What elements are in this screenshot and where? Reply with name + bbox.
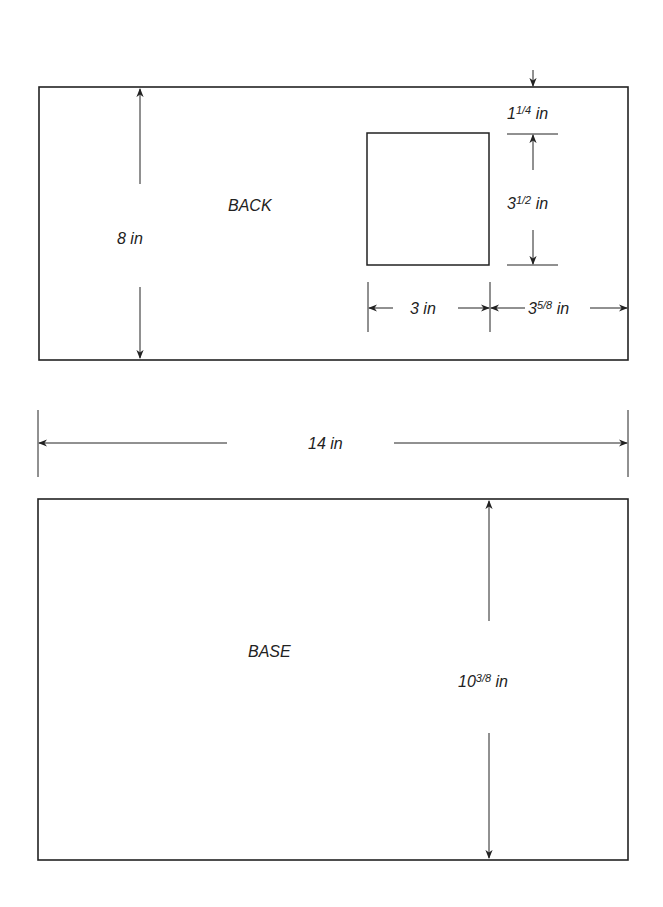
svg-text:103/8 in: 103/8 in [458, 672, 508, 690]
base-label: BASE [248, 643, 291, 660]
woodworking-panel-diagram: BACK 8 in 11/4 in 31/2 in [0, 0, 663, 907]
cutout-top-offset-dimension: 11/4 in [507, 70, 548, 122]
width-dimension: 14 in [38, 410, 628, 477]
svg-text:35/8 in: 35/8 in [528, 299, 569, 317]
cutout-rectangle [367, 133, 489, 265]
back-height-label: 8 in [117, 230, 143, 247]
base-height-dimension: 103/8 in [458, 501, 508, 858]
svg-text:31/2 in: 31/2 in [507, 194, 548, 212]
base-panel: BASE 103/8 in [38, 499, 628, 860]
back-label: BACK [228, 197, 273, 214]
svg-text:11/4 in: 11/4 in [507, 104, 548, 122]
back-panel: BACK 8 in 11/4 in 31/2 in [39, 70, 628, 360]
back-height-dimension: 8 in [117, 89, 143, 358]
cutout-right-offset-dimension: 35/8 in [491, 299, 627, 317]
cutout-height-dimension: 31/2 in [507, 134, 558, 265]
width-label: 14 in [308, 435, 343, 452]
svg-text:3 in: 3 in [410, 300, 436, 317]
cutout-width-dimension: 3 in [368, 282, 490, 332]
